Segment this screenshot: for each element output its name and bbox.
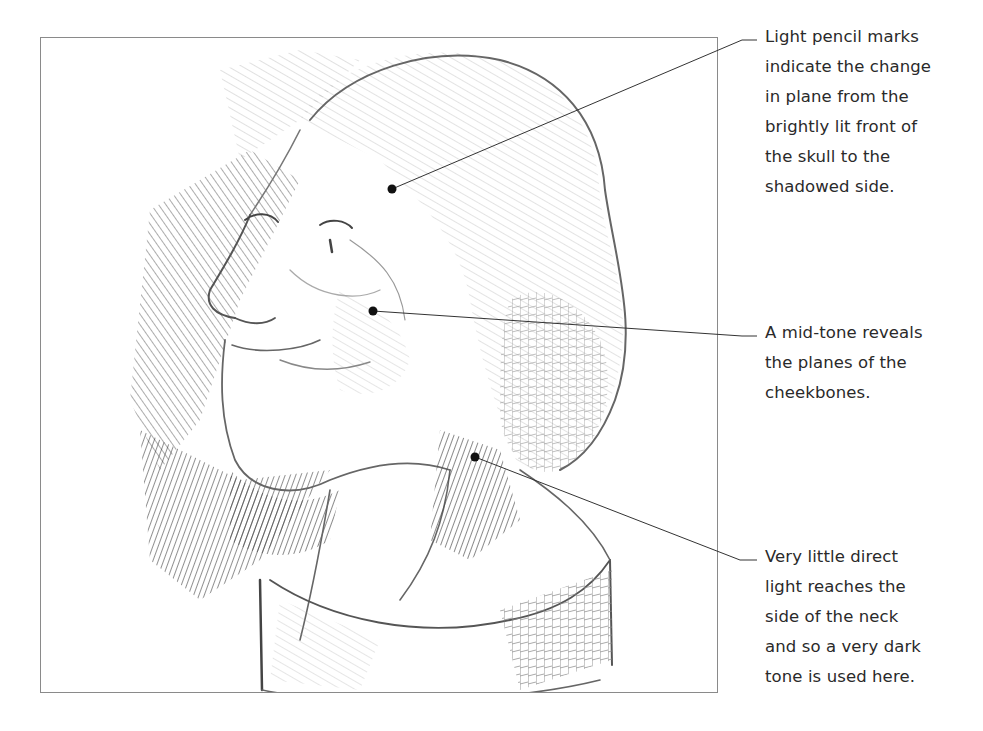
annotation-skull-plane: Light pencil marksindicate the changein …: [765, 22, 975, 202]
annotation-line: light reaches the: [765, 572, 975, 602]
leader-line: [475, 457, 757, 560]
marker-dot-icon: [369, 307, 378, 316]
annotation-line: Light pencil marks: [765, 22, 975, 52]
annotation-line: the planes of the: [765, 348, 975, 378]
annotation-line: indicate the change: [765, 52, 975, 82]
marker-dot-icon: [471, 453, 480, 462]
marker-dot-icon: [388, 185, 397, 194]
annotation-line: cheekbones.: [765, 378, 975, 408]
annotation-line: tone is used here.: [765, 662, 975, 692]
annotation-line: A mid-tone reveals: [765, 318, 975, 348]
annotation-cheekbones: A mid-tone revealsthe planes of thecheek…: [765, 318, 975, 408]
annotation-line: brightly lit front of: [765, 112, 975, 142]
annotation-line: in plane from the: [765, 82, 975, 112]
annotation-line: and so a very dark: [765, 632, 975, 662]
annotation-line: side of the neck: [765, 602, 975, 632]
annotation-line: Very little direct: [765, 542, 975, 572]
annotation-line: shadowed side.: [765, 172, 975, 202]
annotation-neck-shadow: Very little directlight reaches theside …: [765, 542, 975, 692]
annotation-line: the skull to the: [765, 142, 975, 172]
